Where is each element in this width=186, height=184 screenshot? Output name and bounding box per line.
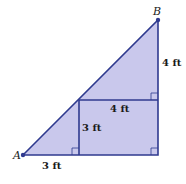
point-a-dot xyxy=(21,153,25,157)
label-inner-vertical: 3 ft xyxy=(82,122,102,133)
label-bottom-left: 3 ft xyxy=(42,160,62,171)
label-inner-horizontal: 4 ft xyxy=(110,103,130,114)
point-a-label: A xyxy=(12,149,21,162)
large-right-triangle xyxy=(23,20,158,155)
point-b-dot xyxy=(156,18,160,22)
geometry-diagram: A B 3 ft 3 ft 4 ft 4 ft xyxy=(0,0,186,184)
point-b-label: B xyxy=(152,5,161,18)
label-right-upper: 4 ft xyxy=(162,57,182,68)
